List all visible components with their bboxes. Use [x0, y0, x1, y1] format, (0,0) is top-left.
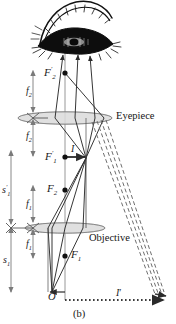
figure-caption: (b)	[73, 308, 85, 319]
label-s1: s1	[3, 255, 10, 267]
ray-diagram-canvas	[0, 0, 176, 324]
point-F2-prime	[62, 70, 67, 75]
label-f1-lower-sub: 1	[29, 244, 32, 251]
label-intermediate-image: I	[71, 144, 74, 154]
optics-figure: F′2 F′1 F2 F1 O I I′ f2 f2 f1 f1 s′1 s1 …	[0, 0, 176, 324]
label-f1-upper-sub: 1	[29, 204, 32, 211]
label-F2-prime-sub: 2	[52, 73, 55, 80]
label-f2-upper-sub: 2	[29, 91, 32, 98]
label-F1-sub: 1	[78, 255, 81, 262]
eye-icon	[31, 1, 121, 60]
label-f2-lower-sub: 2	[29, 136, 32, 143]
label-F2-base: F	[47, 182, 54, 194]
objective-label: Objective	[89, 232, 130, 243]
label-F2-prime-base: F	[44, 66, 51, 78]
label-f1-upper: f1	[26, 199, 32, 211]
label-s1-prime-sub: 1	[7, 190, 10, 197]
label-s1-prime: s′1	[2, 184, 10, 198]
point-F1-prime	[62, 154, 67, 159]
label-F1-prime-base: F	[45, 150, 52, 162]
label-F2: F2	[47, 183, 57, 197]
label-F1-prime-sub: 1	[53, 157, 56, 164]
label-O: O	[48, 292, 56, 303]
point-F2	[62, 187, 67, 192]
label-final-image-prime: ′	[119, 287, 121, 298]
eyepiece-label: Eyepiece	[116, 110, 154, 121]
point-F1	[62, 253, 67, 258]
label-f2-lower: f2	[26, 131, 32, 143]
final-image-arrow	[155, 294, 166, 296]
label-F1: F1	[71, 249, 81, 263]
label-F2-prime: F′2	[44, 66, 56, 81]
label-f1-lower: f1	[26, 239, 32, 251]
label-F2-sub: 2	[54, 189, 57, 196]
label-s1-sub: 1	[7, 260, 10, 267]
label-F1-prime: F′1	[45, 150, 57, 165]
label-F1-base: F	[71, 248, 78, 260]
label-f2-upper: f2	[26, 86, 32, 98]
scale-bars	[6, 75, 48, 292]
virtual-ray-bundle-dashed	[92, 120, 164, 294]
label-final-image: I′	[116, 288, 122, 298]
